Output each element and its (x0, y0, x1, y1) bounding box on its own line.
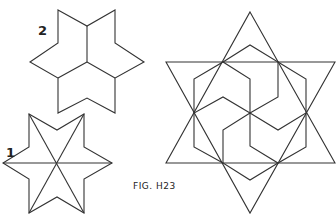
star-2 (30, 10, 144, 113)
pinwheel-arm (194, 62, 250, 113)
figure-caption: FIG. H23 (133, 182, 176, 191)
star-2-divider (87, 62, 115, 78)
large-star (166, 12, 335, 213)
pinwheel-arm (194, 97, 250, 163)
pinwheel-arm (250, 113, 306, 163)
star-1 (3, 114, 112, 213)
star-2-divider (58, 62, 87, 78)
label-2: 2 (38, 24, 47, 37)
label-1: 1 (6, 146, 15, 159)
